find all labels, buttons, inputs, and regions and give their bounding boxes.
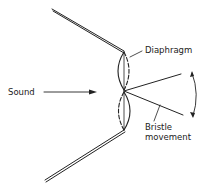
diaphragm-leader <box>130 51 142 57</box>
bristle-label-line2: movement <box>145 132 191 142</box>
diaphragm-upper-lobe <box>118 52 129 90</box>
bristle-leader <box>154 105 160 121</box>
upper-horn-wall <box>52 9 124 53</box>
diagram-canvas: Diaphragm Sound Bristle movement <box>0 0 208 185</box>
diaphragm-lower-lobe <box>119 92 131 130</box>
movement-arc-arrow <box>192 73 196 116</box>
sound-label: Sound <box>8 87 35 97</box>
lower-horn-wall <box>45 130 125 182</box>
bristle <box>124 74 183 115</box>
diaphragm-label: Diaphragm <box>145 45 192 55</box>
bristle-label-line1: Bristle <box>145 122 172 132</box>
